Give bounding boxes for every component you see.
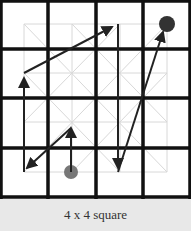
caption: 4 x 4 square (0, 199, 191, 231)
end-marker (159, 16, 175, 32)
grid-svg (0, 0, 191, 199)
grid-diagram (0, 0, 191, 199)
